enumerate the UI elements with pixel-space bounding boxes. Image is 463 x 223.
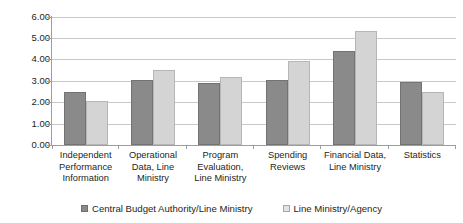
bar-series-1: [288, 61, 310, 145]
bar-group: [389, 17, 456, 145]
bar-group: [119, 17, 186, 145]
x-tick-mark: [186, 145, 187, 149]
bar-series-0: [64, 92, 86, 145]
bar-group: [321, 17, 388, 145]
x-axis-label: Spending Reviews: [254, 150, 321, 196]
x-axis-label: Statistics: [389, 150, 456, 196]
y-tick-label: 2.00: [6, 97, 50, 107]
bar-group: [187, 17, 254, 145]
chart-legend: Central Budget Authority/Line Ministry L…: [0, 203, 463, 214]
x-tick-mark: [52, 145, 53, 149]
x-tick-mark: [455, 145, 456, 149]
y-tick-label: 6.00: [6, 12, 50, 22]
bar-series-0: [266, 80, 288, 145]
bar-chart: 6.00 5.00 4.00 3.00 2.00 1.00 0.00: [0, 0, 463, 223]
bar-group: [52, 17, 119, 145]
y-tick-label: 4.00: [6, 54, 50, 64]
x-tick-mark: [388, 145, 389, 149]
bar-series-1: [86, 101, 108, 145]
y-tick-label: 1.00: [6, 119, 50, 129]
x-axis-label: Operational Data, Line Ministry: [119, 150, 186, 196]
legend-item-series-0: Central Budget Authority/Line Ministry: [81, 203, 253, 214]
x-axis-line: [52, 145, 456, 146]
legend-swatch-icon: [81, 205, 88, 212]
x-axis-labels: Independent Performance Information Oper…: [52, 150, 456, 196]
x-axis-label: Program Evaluation, Line Ministry: [187, 150, 254, 196]
legend-label: Line Ministry/Agency: [294, 203, 383, 214]
bar-series-0: [333, 51, 355, 145]
y-tick-label: 5.00: [6, 33, 50, 43]
x-axis-label: Independent Performance Information: [52, 150, 119, 196]
x-axis-label: Financial Data, Line Ministry: [321, 150, 388, 196]
bar-group: [254, 17, 321, 145]
y-tick-label: 3.00: [6, 76, 50, 86]
legend-swatch-icon: [283, 205, 290, 212]
bar-series-0: [131, 80, 153, 145]
y-tick-label: 0.00: [6, 140, 50, 150]
y-axis: 6.00 5.00 4.00 3.00 2.00 1.00 0.00: [0, 0, 50, 223]
x-tick-mark: [118, 145, 119, 149]
bar-series-1: [153, 70, 175, 145]
x-tick-mark: [253, 145, 254, 149]
legend-item-series-1: Line Ministry/Agency: [283, 203, 383, 214]
bar-series-1: [220, 77, 242, 145]
bar-series-0: [198, 83, 220, 145]
bar-series-0: [400, 82, 422, 145]
bar-groups: [52, 17, 456, 145]
x-tick-mark: [320, 145, 321, 149]
legend-label: Central Budget Authority/Line Ministry: [92, 203, 253, 214]
bar-series-1: [422, 92, 444, 145]
bar-series-1: [355, 31, 377, 145]
